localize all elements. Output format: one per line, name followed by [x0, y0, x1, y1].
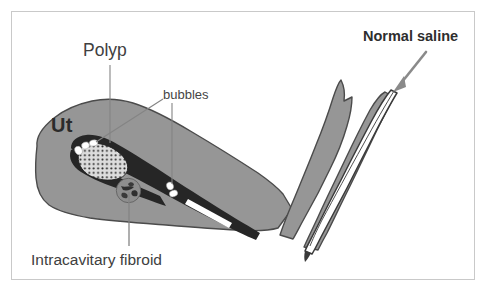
label-normal-saline: Normal saline: [363, 29, 458, 44]
label-uterus-abbrev: Ut: [51, 114, 73, 137]
cervix-vagina-posterior: [280, 80, 352, 239]
uterus-diagram: [0, 0, 489, 294]
saline-arrow-shaft: [402, 52, 426, 82]
label-bubbles: bubbles: [163, 88, 209, 101]
label-intracavitary-fibroid: Intracavitary fibroid: [31, 252, 162, 268]
label-polyp: Polyp: [83, 42, 127, 60]
figure-root: Polyp bubbles Ut Intracavitary fibroid N…: [0, 0, 489, 294]
saline-arrow-head: [393, 76, 406, 92]
